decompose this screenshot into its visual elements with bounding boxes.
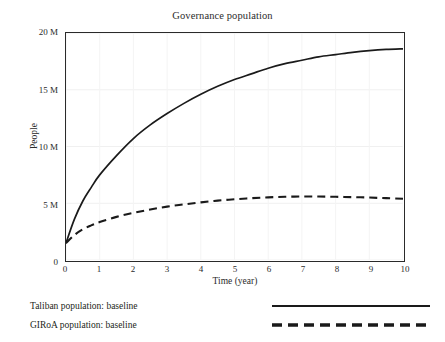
series-lines xyxy=(66,33,403,260)
legend-item-giroa: GIRoA population: baseline xyxy=(0,315,445,334)
plot-canvas xyxy=(66,33,404,261)
x-tick-label: 2 xyxy=(118,264,148,274)
y-tick-label: 5 M xyxy=(14,200,58,210)
x-tick-label: 4 xyxy=(186,264,216,274)
legend-label-taliban: Taliban population: baseline xyxy=(30,301,265,311)
y-tick-label: 15 M xyxy=(14,85,58,95)
legend-swatch-solid-line xyxy=(272,299,430,313)
x-tick-label: 8 xyxy=(322,264,352,274)
plot-area xyxy=(65,32,405,262)
x-tick-label: 7 xyxy=(288,264,318,274)
x-tick-label: 3 xyxy=(152,264,182,274)
gridlines xyxy=(66,33,403,260)
y-tick-label: 20 M xyxy=(14,27,58,37)
y-axis-label: People xyxy=(29,96,39,176)
x-tick-label: 1 xyxy=(84,264,114,274)
x-tick-label: 0 xyxy=(50,264,80,274)
x-tick-label: 10 xyxy=(390,264,420,274)
legend-item-taliban: Taliban population: baseline xyxy=(0,296,445,315)
chart-legend: Taliban population: baseline GIRoA popul… xyxy=(0,296,445,334)
chart-title: Governance population xyxy=(0,10,445,21)
x-tick-label: 9 xyxy=(356,264,386,274)
x-axis-label: Time (year) xyxy=(65,276,405,286)
x-tick-label: 5 xyxy=(220,264,250,274)
legend-label-giroa: GIRoA population: baseline xyxy=(30,320,265,330)
x-tick-label: 6 xyxy=(254,264,284,274)
chart-figure: Governance population People 05 M10 M15 … xyxy=(0,0,445,342)
legend-swatch-dashed-line xyxy=(272,318,430,332)
